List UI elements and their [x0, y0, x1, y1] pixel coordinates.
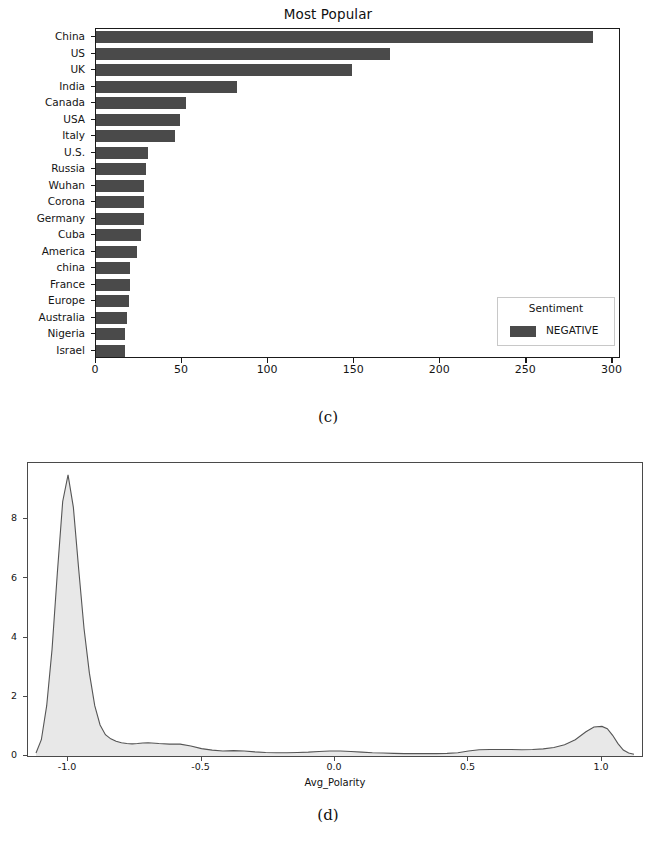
- bar-chart-x-tick-mark: [525, 358, 526, 363]
- bar-corona: [96, 196, 144, 208]
- bar-us: [96, 48, 390, 60]
- legend-entry-negative: NEGATIVE: [498, 322, 614, 340]
- bar-chart-x-tick-mark: [439, 358, 440, 363]
- bar-chart-x-axis-labels: 050100150200250300: [95, 363, 620, 381]
- figure-c-bar-chart: Most Popular ChinaUSUKIndiaCanadaUSAItal…: [0, 0, 656, 400]
- bar-chart-x-tick-label: 100: [257, 363, 278, 376]
- bar-india: [96, 81, 237, 93]
- bar-chart-title: Most Popular: [0, 6, 656, 22]
- bar-italy: [96, 130, 175, 142]
- bar-chart-x-tick-label: 0: [92, 363, 99, 376]
- figure-d-caption: (d): [0, 806, 656, 824]
- bar-russia: [96, 163, 146, 175]
- bar-usa: [96, 114, 180, 126]
- bar-u-s: [96, 147, 148, 159]
- density-curve: [28, 463, 642, 756]
- bar-europe: [96, 295, 129, 307]
- bar-china: [96, 262, 130, 274]
- legend-color-swatch: [510, 326, 536, 337]
- bar-chart-x-tick-mark: [353, 358, 354, 363]
- density-line-path: [36, 475, 634, 754]
- bar-chart-x-tick-label: 50: [174, 363, 188, 376]
- bar-australia: [96, 312, 127, 324]
- bar-germany: [96, 213, 144, 225]
- bar-nigeria: [96, 328, 125, 340]
- bar-chart-y-axis-ticks: [0, 28, 95, 358]
- figure-c-caption: (c): [0, 408, 656, 426]
- density-x-tick-label: 0.0: [326, 761, 341, 772]
- density-plot-area: [27, 462, 643, 757]
- bar-chart-x-tick-mark: [95, 358, 96, 363]
- density-x-axis-title: Avg_Polarity: [27, 777, 643, 788]
- bar-chart-x-tick-label: 200: [429, 363, 450, 376]
- legend-title: Sentiment: [498, 302, 614, 314]
- density-x-tick-label: 0.5: [460, 761, 475, 772]
- bar-france: [96, 279, 130, 291]
- bar-chart-x-tick-label: 300: [601, 363, 622, 376]
- bar-canada: [96, 97, 186, 109]
- density-fill-path: [36, 475, 634, 756]
- bar-chart-x-tick-label: 150: [343, 363, 364, 376]
- bar-china: [96, 31, 593, 43]
- density-x-tick-label: -1.0: [58, 761, 77, 772]
- bar-israel: [96, 345, 125, 357]
- density-x-tick-label: 1.0: [593, 761, 608, 772]
- bar-chart-x-tick-label: 250: [515, 363, 536, 376]
- figure-d-density-plot: 02468 -1.0-0.50.00.51.0 Avg_Polarity (d): [0, 440, 656, 854]
- density-x-axis-labels: -1.0-0.50.00.51.0: [27, 761, 643, 777]
- bar-chart-x-tick-mark: [611, 358, 612, 363]
- bar-uk: [96, 64, 352, 76]
- bar-chart-legend: Sentiment NEGATIVE: [497, 297, 615, 346]
- density-y-axis-ticks: [0, 462, 27, 757]
- density-x-tick-label: -0.5: [191, 761, 210, 772]
- bar-america: [96, 246, 137, 258]
- bar-cuba: [96, 229, 141, 241]
- bar-wuhan: [96, 180, 144, 192]
- bar-chart-x-tick-mark: [181, 358, 182, 363]
- legend-entry-label: NEGATIVE: [546, 324, 598, 336]
- bar-chart-x-tick-mark: [267, 358, 268, 363]
